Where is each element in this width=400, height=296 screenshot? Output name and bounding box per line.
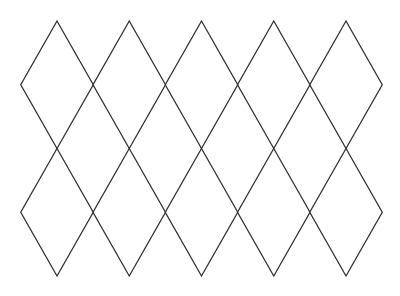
lattice-canvas: [0, 0, 400, 296]
diamond-shape: [21, 21, 94, 149]
diamond-shape: [21, 149, 94, 277]
diamond-shape: [93, 149, 166, 277]
diamond-shape: [165, 21, 238, 149]
diamond-shape: [165, 149, 238, 277]
diamond-shape: [310, 149, 383, 277]
diamond-shape: [310, 21, 383, 149]
diamond-group: [21, 21, 383, 276]
diamond-shape: [238, 149, 311, 277]
diamond-shape: [93, 21, 166, 149]
diamond-shape: [238, 21, 311, 149]
